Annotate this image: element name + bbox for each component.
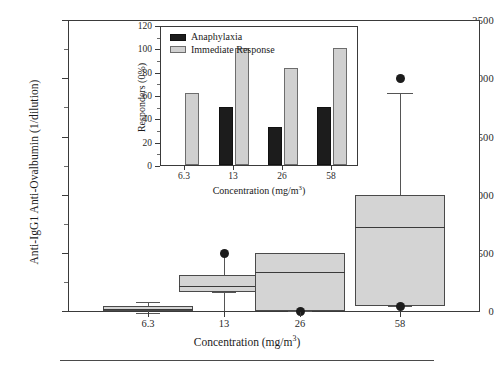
legend-item-anaphylaxia: Anaphylaxia [170, 31, 275, 44]
inset-ytick-label-0: 0 [122, 161, 152, 171]
legend-label-anaphylaxia: Anaphylaxia [191, 31, 242, 44]
inset-x-axis-title-text: Concentration (mg/m [213, 185, 299, 196]
main-xtick-label-26: 26 [265, 318, 335, 329]
inset-ytick-mark [155, 166, 160, 167]
main-xtick-mark [400, 312, 401, 317]
box-iqr [255, 253, 345, 311]
bar-anaphylaxia-58 [317, 107, 331, 165]
inset-xtick-mark [184, 166, 185, 170]
main-x-axis-title-text: Concentration (mg/m [194, 336, 293, 348]
bar-immediate-13 [235, 48, 249, 165]
inset-xtick-label-13: 13 [208, 171, 258, 181]
bar-immediate-6.3 [185, 93, 199, 165]
bar-anaphylaxia-26 [268, 127, 282, 166]
bar-anaphylaxia-13 [219, 107, 233, 165]
inset-bar-chart: 120 100 80 60 40 20 0 Responders (0%) [128, 26, 358, 188]
figure-bottom-rule [60, 360, 434, 361]
main-xtick-mark [224, 312, 225, 317]
bar-immediate-58 [333, 48, 347, 165]
whisker-cap-upper [136, 302, 160, 303]
main-xtick-label-58: 58 [365, 318, 435, 329]
inset-x-axis-title-tail: ) [302, 185, 305, 196]
inset-xtick-mark [331, 166, 332, 170]
main-y-axis-title: Anti-IgG1 Anti-Ovalbumin (1/dilution) [28, 42, 40, 302]
legend-item-immediate-response: Immediate Response [170, 44, 275, 57]
median-line [255, 272, 345, 273]
outlier-point [220, 249, 229, 258]
main-xtick-mark [148, 312, 149, 317]
main-x-axis-title-tail: ) [296, 336, 300, 348]
median-line [103, 309, 193, 310]
inset-xtick-label-26: 26 [257, 171, 307, 181]
black-square-icon [170, 34, 186, 41]
inset-ytick-label-120: 120 [122, 21, 152, 31]
figure-container: 2500 2000 1500 1000 500 0 Anti-IgG1 Anti… [0, 0, 494, 370]
box-iqr [355, 195, 445, 306]
inset-xtick-mark [233, 166, 234, 170]
outlier-point [396, 302, 405, 311]
whisker-upper [400, 93, 401, 195]
outlier-point [396, 74, 405, 83]
main-xtick-label-13: 13 [189, 318, 259, 329]
main-xtick-label-6.3: 6.3 [113, 318, 183, 329]
legend-label-immediate-response: Immediate Response [191, 44, 275, 57]
bar-immediate-26 [284, 68, 298, 165]
inset-y-axis-title: Responders (0%) [136, 33, 147, 163]
whisker-cap-lower [212, 292, 236, 293]
whisker-lower [224, 292, 225, 311]
main-xtick-mark [300, 312, 301, 317]
inset-xtick-label-58: 58 [306, 171, 356, 181]
whisker-cap-upper [387, 93, 413, 94]
inset-x-axis-title: Concentration (mg/m3) [160, 184, 358, 196]
inset-legend: Anaphylaxia Immediate Response [170, 31, 275, 56]
inset-xtick-label-6.3: 6.3 [159, 171, 209, 181]
main-x-axis-title: Concentration (mg/m3) [0, 334, 494, 348]
median-line [355, 227, 445, 228]
gray-square-icon [170, 46, 186, 53]
inset-xtick-mark [282, 166, 283, 170]
